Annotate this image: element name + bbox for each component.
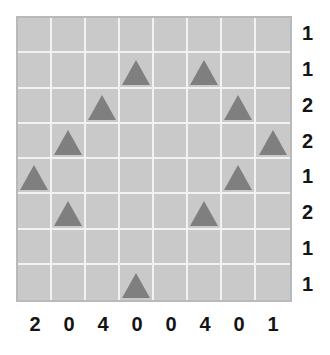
- triangle-icon: [224, 165, 252, 190]
- column-label: 0: [154, 304, 188, 344]
- column-label: 4: [188, 304, 222, 344]
- grid-cell[interactable]: [52, 53, 86, 88]
- grid-cell[interactable]: [188, 89, 222, 124]
- grid-cell[interactable]: [86, 230, 120, 265]
- grid-board-border: [16, 16, 292, 302]
- grid-cell[interactable]: [120, 124, 154, 159]
- grid-cell[interactable]: [18, 265, 52, 300]
- grid-cell[interactable]: [222, 194, 256, 229]
- triangle-icon: [122, 273, 150, 298]
- grid-cell[interactable]: [154, 124, 188, 159]
- grid-cell[interactable]: [154, 265, 188, 300]
- grid-cell[interactable]: [222, 89, 256, 124]
- grid-cell[interactable]: [256, 89, 290, 124]
- grid-cell[interactable]: [120, 53, 154, 88]
- grid-cell[interactable]: [154, 194, 188, 229]
- grid-cell[interactable]: [120, 159, 154, 194]
- grid-cell[interactable]: [154, 159, 188, 194]
- grid-cell[interactable]: [256, 53, 290, 88]
- grid-cell[interactable]: [222, 159, 256, 194]
- row-label: 2: [296, 195, 326, 231]
- grid-cell[interactable]: [52, 159, 86, 194]
- grid-cell[interactable]: [52, 265, 86, 300]
- grid-cell[interactable]: [222, 18, 256, 53]
- triangle-icon: [190, 60, 218, 85]
- grid-cell[interactable]: [154, 89, 188, 124]
- grid-cell[interactable]: [188, 124, 222, 159]
- grid-cell[interactable]: [120, 18, 154, 53]
- grid-cell[interactable]: [18, 18, 52, 53]
- grid-cell[interactable]: [120, 194, 154, 229]
- triangle-icon: [224, 95, 252, 120]
- grid-cell[interactable]: [120, 89, 154, 124]
- grid-cell[interactable]: [52, 124, 86, 159]
- grid-cell[interactable]: [52, 89, 86, 124]
- grid-cell[interactable]: [120, 265, 154, 300]
- grid-cell[interactable]: [154, 53, 188, 88]
- column-label: 0: [120, 304, 154, 344]
- row-label-column: 11221211: [296, 16, 326, 302]
- row-label: 1: [296, 52, 326, 88]
- triangle-icon: [88, 95, 116, 120]
- grid-board[interactable]: [18, 18, 290, 300]
- grid-cell[interactable]: [222, 53, 256, 88]
- column-label: 0: [222, 304, 256, 344]
- grid-cell[interactable]: [222, 124, 256, 159]
- row-label: 2: [296, 88, 326, 124]
- row-label: 1: [296, 16, 326, 52]
- grid-cell[interactable]: [256, 230, 290, 265]
- column-label: 2: [18, 304, 52, 344]
- grid-cell[interactable]: [86, 89, 120, 124]
- grid-cell[interactable]: [154, 230, 188, 265]
- grid-cell[interactable]: [256, 18, 290, 53]
- grid-cell[interactable]: [188, 265, 222, 300]
- grid-cell[interactable]: [154, 18, 188, 53]
- grid-cell[interactable]: [222, 265, 256, 300]
- grid-cell[interactable]: [18, 230, 52, 265]
- grid-cell[interactable]: [188, 18, 222, 53]
- grid-cell[interactable]: [256, 124, 290, 159]
- triangle-icon: [54, 130, 82, 155]
- triangle-icon: [20, 165, 48, 190]
- triangle-icon: [54, 201, 82, 226]
- grid-cell[interactable]: [120, 230, 154, 265]
- grid-cell[interactable]: [86, 18, 120, 53]
- grid-cell[interactable]: [18, 159, 52, 194]
- column-label: 4: [86, 304, 120, 344]
- grid-cell[interactable]: [52, 18, 86, 53]
- row-label: 2: [296, 123, 326, 159]
- triangle-icon: [122, 60, 150, 85]
- grid-cell[interactable]: [18, 53, 52, 88]
- column-label: 1: [256, 304, 290, 344]
- grid-cell[interactable]: [86, 53, 120, 88]
- grid-cell[interactable]: [188, 230, 222, 265]
- grid-cell[interactable]: [52, 194, 86, 229]
- column-label: 0: [52, 304, 86, 344]
- grid-cell[interactable]: [18, 124, 52, 159]
- row-label: 1: [296, 231, 326, 267]
- grid-cell[interactable]: [86, 124, 120, 159]
- grid-cell[interactable]: [86, 159, 120, 194]
- row-label: 1: [296, 159, 326, 195]
- grid-cell[interactable]: [18, 89, 52, 124]
- grid-cell[interactable]: [188, 194, 222, 229]
- grid-cell[interactable]: [86, 265, 120, 300]
- grid-cell[interactable]: [256, 159, 290, 194]
- row-label: 1: [296, 266, 326, 302]
- grid-cell[interactable]: [18, 194, 52, 229]
- grid-cell[interactable]: [256, 194, 290, 229]
- triangle-icon: [259, 130, 287, 155]
- grid-cell[interactable]: [256, 265, 290, 300]
- grid-cell[interactable]: [86, 194, 120, 229]
- grid-cell[interactable]: [52, 230, 86, 265]
- grid-cell[interactable]: [222, 230, 256, 265]
- triangle-grid-puzzle: 11221211 20400401: [0, 0, 330, 355]
- triangle-icon: [190, 201, 218, 226]
- grid-cell[interactable]: [188, 53, 222, 88]
- grid-cell[interactable]: [188, 159, 222, 194]
- column-label-row: 20400401: [18, 304, 290, 344]
